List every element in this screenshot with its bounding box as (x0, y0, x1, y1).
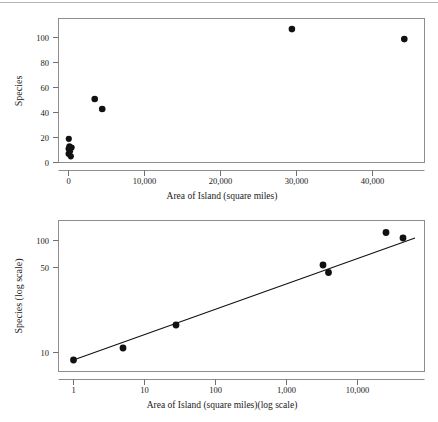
top-y-ticklabels: 0 20 40 60 80 100 (36, 33, 49, 168)
top-x-ticklabel-40000: 40,000 (361, 176, 384, 186)
bottom-y-axis-title: Species (log scale) (13, 259, 25, 334)
top-x-ticklabel-10000: 10,000 (133, 176, 156, 186)
top-y-ticklabel-20: 20 (41, 133, 50, 143)
bottom-x-ticklabel-10000: 10,000 (346, 385, 369, 395)
top-y-axis-title: Species (13, 76, 24, 107)
top-x-ticklabel-20000: 20,000 (209, 176, 232, 186)
data-point (173, 322, 180, 329)
top-y-ticklabel-0: 0 (45, 158, 49, 168)
bottom-x-ticklabels: 1 10 100 1,000 10,000 (71, 385, 369, 395)
bottom-y-ticklabels: 100 50 10 (36, 236, 49, 358)
data-point (99, 106, 106, 113)
top-y-ticks (53, 38, 59, 163)
figure-container: 0 20 40 60 80 100 Species 0 (0, 0, 438, 422)
bottom-y-ticklabel-100: 100 (36, 236, 49, 246)
bottom-x-ticklabel-10: 10 (140, 385, 149, 395)
data-point (400, 235, 407, 242)
top-plot-frame (59, 19, 425, 163)
regression-line (72, 238, 415, 361)
top-y-ticklabel-100: 100 (36, 33, 49, 43)
bottom-plot-frame (59, 221, 425, 372)
data-point (289, 26, 296, 33)
bottom-x-ticklabel-100: 100 (209, 385, 222, 395)
bottom-x-ticklabel-1000: 1,000 (277, 385, 296, 395)
bottom-chart: 100 50 10 Species (log scale) 1 10 100 (13, 221, 425, 412)
top-data-points (66, 26, 408, 160)
data-point (70, 357, 77, 364)
top-x-ticklabel-30000: 30,000 (285, 176, 308, 186)
bottom-x-ticklabel-1: 1 (71, 385, 75, 395)
top-x-ticklabel-0: 0 (66, 176, 70, 186)
data-point (69, 144, 75, 150)
bottom-x-axis-title: Area of Island (square miles)(log scale) (147, 400, 298, 411)
data-point (66, 136, 72, 142)
data-point (120, 345, 127, 352)
data-point (68, 153, 74, 159)
top-chart: 0 20 40 60 80 100 Species 0 (13, 19, 425, 203)
data-point (320, 262, 327, 269)
bottom-y-ticks (53, 241, 59, 353)
top-y-ticklabel-40: 40 (41, 108, 50, 118)
data-point (383, 229, 390, 236)
bottom-y-ticklabel-50: 50 (41, 263, 50, 273)
top-y-ticklabel-60: 60 (41, 83, 50, 93)
data-point (325, 269, 332, 276)
data-point (91, 96, 98, 103)
top-x-axis-title: Area of Island (square miles) (167, 191, 278, 202)
top-x-ticklabels: 0 10,000 20,000 30,000 40,000 (66, 176, 384, 186)
top-y-ticklabel-80: 80 (41, 58, 50, 68)
data-point (401, 36, 408, 43)
bottom-y-ticklabel-10: 10 (41, 348, 50, 358)
charts-svg: 0 20 40 60 80 100 Species 0 (0, 0, 438, 422)
